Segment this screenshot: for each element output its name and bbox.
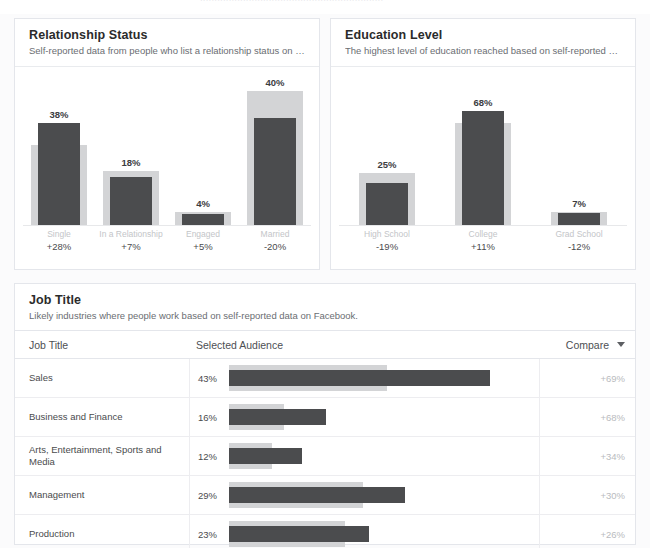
- cell-selected-audience: 43%: [190, 359, 539, 397]
- audience-value-bar: [229, 487, 405, 503]
- education-level-chart: 25%68%7% High School-19%College+11%Grad …: [331, 67, 635, 263]
- relationship-value-label: 4%: [175, 198, 231, 209]
- education-category-label: High School-19%: [339, 228, 435, 253]
- cell-compare-value: +34%: [539, 437, 635, 475]
- table-row[interactable]: Business and Finance16%+68%: [15, 398, 635, 437]
- cell-job-title: Arts, Entertainment, Sports and Media: [15, 437, 190, 475]
- audience-bar-group: [229, 482, 533, 508]
- education-level-axis-line: [339, 225, 627, 226]
- cell-job-title: Production: [15, 515, 190, 548]
- relationship-delta-value: -20%: [239, 240, 311, 253]
- education-level-plot: 25%68%7%: [339, 73, 627, 225]
- relationship-status-chart: 38%18%4%40% Single+28%In a Relationship+…: [15, 67, 319, 263]
- cell-job-title: Sales: [15, 359, 190, 397]
- education-category-name: Grad School: [531, 228, 627, 240]
- relationship-bar-group[interactable]: 38%: [23, 73, 95, 225]
- relationship-delta-value: +28%: [23, 240, 95, 253]
- relationship-bar-group[interactable]: 4%: [167, 73, 239, 225]
- relationship-value-label: 38%: [31, 109, 87, 120]
- table-row[interactable]: Sales43%+69%: [15, 359, 635, 398]
- education-value-bar: [366, 183, 408, 225]
- cell-selected-audience: 29%: [190, 476, 539, 514]
- job-title-title: Job Title: [29, 293, 623, 308]
- education-category-label: College+11%: [435, 228, 531, 253]
- education-value-label: 7%: [551, 198, 607, 209]
- relationship-status-plot: 38%18%4%40%: [23, 73, 311, 225]
- education-delta-value: -19%: [339, 240, 435, 253]
- cell-compare-value: +69%: [539, 359, 635, 397]
- cell-selected-audience: 23%: [190, 515, 539, 548]
- audience-value-bar: [229, 448, 302, 464]
- education-bar-group[interactable]: 25%: [339, 73, 435, 225]
- job-title-table-body: Sales43%+69%Business and Finance16%+68%A…: [15, 359, 635, 548]
- relationship-category-label: Engaged+5%: [167, 228, 239, 253]
- relationship-bars: 38%: [31, 73, 87, 225]
- cell-audience-percent: 16%: [198, 412, 222, 423]
- relationship-value-bar: [182, 214, 224, 225]
- relationship-category-name: Married: [239, 228, 311, 240]
- relationship-value-bar: [110, 177, 152, 225]
- education-category-label: Grad School-12%: [531, 228, 627, 253]
- chevron-down-icon[interactable]: [617, 342, 625, 347]
- education-bar-group[interactable]: 68%: [435, 73, 531, 225]
- relationship-category-name: Single: [23, 228, 95, 240]
- table-row[interactable]: Production23%+26%: [15, 515, 635, 548]
- relationship-bar-group[interactable]: 40%: [239, 73, 311, 225]
- relationship-category-label: Married-20%: [239, 228, 311, 253]
- education-bar-group[interactable]: 7%: [531, 73, 627, 225]
- education-delta-value: -12%: [531, 240, 627, 253]
- education-bars: 25%: [359, 73, 415, 225]
- relationship-status-header: Relationship Status Self-reported data f…: [15, 19, 319, 67]
- relationship-category-name: In a Relationship: [95, 228, 167, 240]
- relationship-value-label: 18%: [103, 157, 159, 168]
- education-level-card: Education Level The highest level of edu…: [330, 18, 636, 270]
- column-header-compare[interactable]: Compare: [539, 339, 635, 351]
- cell-selected-audience: 16%: [190, 398, 539, 436]
- cell-audience-percent: 23%: [198, 529, 222, 540]
- column-header-job-title[interactable]: Job Title: [15, 339, 190, 351]
- clipped-header-text: ········································…: [200, 0, 383, 5]
- audience-bar-group: [229, 521, 533, 547]
- education-value-bar: [558, 213, 600, 225]
- table-row[interactable]: Management29%+30%: [15, 476, 635, 515]
- cell-compare-value: +26%: [539, 515, 635, 548]
- job-title-header: Job Title Likely industries where people…: [15, 284, 635, 330]
- education-level-header: Education Level The highest level of edu…: [331, 19, 635, 67]
- table-row[interactable]: Arts, Entertainment, Sports and Media12%…: [15, 437, 635, 476]
- education-level-subtitle: The highest level of education reached b…: [345, 45, 623, 57]
- relationship-status-title: Relationship Status: [29, 28, 307, 43]
- relationship-bars: 40%: [247, 73, 303, 225]
- relationship-bar-group[interactable]: 18%: [95, 73, 167, 225]
- audience-bar-group: [229, 404, 533, 430]
- education-level-title: Education Level: [345, 28, 623, 43]
- clipped-header-strip: ········································…: [0, 0, 650, 14]
- column-header-selected-audience[interactable]: Selected Audience: [190, 339, 539, 351]
- relationship-status-axis-line: [23, 225, 311, 226]
- relationship-bars: 18%: [103, 73, 159, 225]
- audience-value-bar: [229, 526, 369, 542]
- relationship-status-card: Relationship Status Self-reported data f…: [14, 18, 320, 270]
- relationship-value-bar: [38, 123, 80, 225]
- audience-bar-group: [229, 365, 533, 391]
- insights-dashboard: ········································…: [0, 0, 650, 548]
- cell-audience-percent: 43%: [198, 373, 222, 384]
- education-value-label: 25%: [359, 159, 415, 170]
- cell-audience-percent: 12%: [198, 451, 222, 462]
- cell-job-title: Business and Finance: [15, 398, 190, 436]
- cell-compare-value: +30%: [539, 476, 635, 514]
- education-value-bar: [462, 111, 504, 225]
- relationship-category-label: Single+28%: [23, 228, 95, 253]
- education-category-name: High School: [339, 228, 435, 240]
- relationship-value-bar: [254, 118, 296, 225]
- cell-audience-percent: 29%: [198, 490, 222, 501]
- audience-value-bar: [229, 409, 326, 425]
- education-bars: 68%: [455, 73, 511, 225]
- relationship-delta-value: +5%: [167, 240, 239, 253]
- cell-selected-audience: 12%: [190, 437, 539, 475]
- cell-job-title: Management: [15, 476, 190, 514]
- education-level-labels: High School-19%College+11%Grad School-12…: [339, 228, 627, 253]
- education-category-name: College: [435, 228, 531, 240]
- column-header-compare-label: Compare: [566, 339, 609, 351]
- relationship-category-name: Engaged: [167, 228, 239, 240]
- job-title-table-header: Job Title Selected Audience Compare: [15, 330, 635, 359]
